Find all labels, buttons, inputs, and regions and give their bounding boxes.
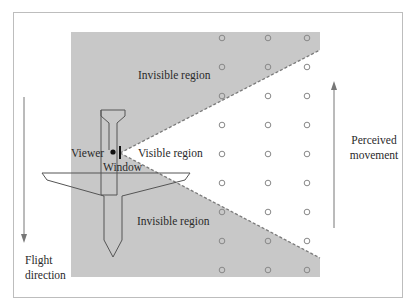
label-invisible-bottom: Invisible region — [137, 215, 210, 228]
viewing-field-diagram: Invisible region Visible region Invisibl… — [0, 0, 412, 302]
label-perceived-1: Perceived — [351, 134, 397, 146]
label-flight-2: direction — [25, 269, 66, 281]
label-invisible-top: Invisible region — [138, 69, 211, 82]
label-perceived-2: movement — [350, 149, 399, 161]
label-visible: Visible region — [138, 147, 203, 160]
label-viewer: Viewer — [71, 147, 104, 159]
label-flight-1: Flight — [25, 254, 53, 267]
viewer-dot-icon — [110, 149, 115, 154]
label-window: Window — [103, 161, 143, 173]
